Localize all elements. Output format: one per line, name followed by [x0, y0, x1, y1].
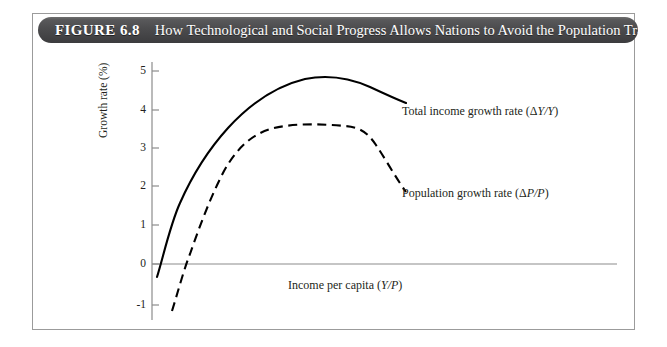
annotation-population-delta: Δ [519, 186, 527, 200]
figure-title-banner: FIGURE 6.8 How Technological and Social … [38, 17, 638, 43]
x-axis-title: Income per capita (Y/P) [288, 278, 402, 293]
y-tick-label-1: 1 [124, 218, 146, 230]
y-tick-label-minus-1: -1 [124, 298, 146, 310]
x-axis-title-tail: ) [398, 278, 402, 292]
y-tick-label-2: 2 [124, 179, 146, 191]
y-tick-label-0: 0 [124, 257, 146, 269]
x-axis-title-symbol: Y/P [381, 278, 398, 292]
annotation-population-growth: Population growth rate (ΔP/P) [402, 186, 549, 201]
annotation-population-text: Population growth rate ( [402, 186, 519, 200]
figure-title-text: How Technological and Social Progress Al… [155, 22, 638, 39]
y-tick-label-3: 3 [124, 141, 146, 153]
annotation-population-symbol: P/P [527, 186, 545, 200]
annotation-total-income-symbol: Y/Y [538, 104, 555, 118]
annotation-total-income-growth: Total income growth rate (ΔY/Y) [402, 104, 558, 119]
y-tick-label-5: 5 [124, 64, 146, 76]
annotation-total-income-delta: Δ [530, 104, 538, 118]
y-tick-label-4: 4 [124, 103, 146, 115]
x-axis-title-text: Income per capita ( [288, 278, 381, 292]
annotation-total-income-text: Total income growth rate ( [402, 104, 530, 118]
y-axis-title: Growth rate (%) [97, 18, 109, 138]
